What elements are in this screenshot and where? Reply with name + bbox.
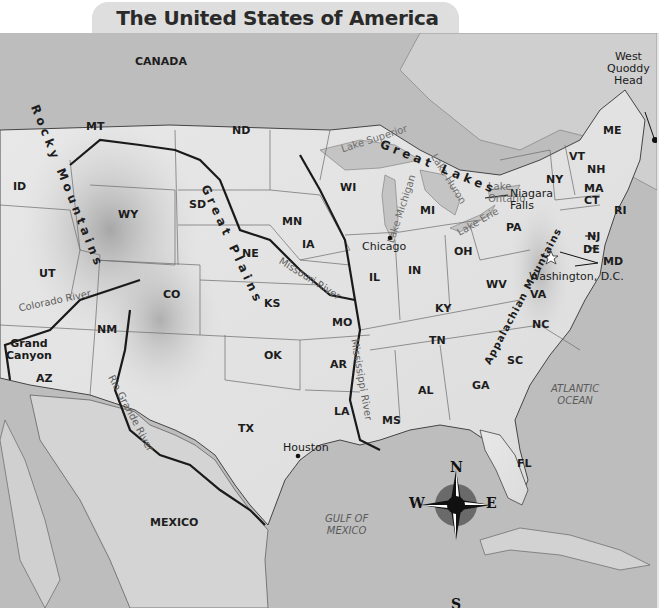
label-niagara-falls: Niagara Falls	[510, 188, 553, 212]
state-MS: MS	[382, 415, 401, 427]
label-atlantic-ocean: ATLANTIC OCEAN	[551, 383, 599, 407]
state-IA: IA	[302, 239, 315, 251]
state-NE: NE	[242, 248, 259, 260]
state-ND: ND	[232, 125, 250, 137]
state-MT: MT	[86, 121, 104, 133]
state-FL: FL	[517, 458, 532, 470]
state-MO: MO	[332, 317, 352, 329]
state-CT: CT	[584, 195, 600, 207]
state-GA: GA	[472, 380, 490, 392]
state-OH: OH	[454, 246, 473, 258]
label-gulf-of-mexico: GULF OF MEXICO	[325, 513, 368, 537]
houston-dot	[296, 454, 301, 459]
state-NY: NY	[546, 174, 563, 186]
us-map: CANADA MEXICO ATLANTIC OCEAN GULF OF MEX…	[0, 33, 659, 608]
state-NH: NH	[587, 164, 605, 176]
state-RI: RI	[614, 205, 627, 217]
compass-west: W	[409, 495, 425, 511]
state-UT: UT	[39, 268, 55, 280]
state-AZ: AZ	[36, 373, 53, 385]
state-VT: VT	[569, 151, 585, 163]
compass-rose	[421, 470, 491, 540]
state-WV: WV	[486, 279, 507, 291]
state-ID: ID	[13, 181, 26, 193]
state-MI: MI	[420, 205, 435, 217]
state-WY: WY	[118, 209, 138, 221]
label-washington-dc: Washington, D.C.	[529, 271, 624, 283]
state-IL: IL	[369, 272, 380, 284]
state-AL: AL	[418, 385, 434, 397]
compass-east: E	[486, 495, 497, 511]
state-MD: MD	[603, 256, 623, 268]
state-NC: NC	[532, 319, 549, 331]
state-NM: NM	[97, 324, 117, 336]
state-WI: WI	[340, 182, 356, 194]
state-SC: SC	[507, 355, 523, 367]
label-houston: Houston	[283, 442, 329, 454]
state-DE: DE	[583, 244, 600, 256]
map-title: The United States of America	[105, 6, 450, 30]
state-KY: KY	[435, 303, 452, 315]
compass-north: N	[450, 459, 463, 475]
state-MN: MN	[282, 216, 302, 228]
label-mexico: MEXICO	[150, 517, 198, 529]
state-CO: CO	[163, 289, 180, 301]
state-PA: PA	[506, 222, 522, 234]
state-TX: TX	[238, 423, 254, 435]
state-ME: ME	[603, 125, 621, 137]
label-grand-canyon: Grand Canyon	[6, 338, 52, 362]
state-TN: TN	[429, 335, 446, 347]
state-VA: VA	[530, 289, 546, 301]
label-canada: CANADA	[135, 56, 187, 68]
state-AR: AR	[330, 359, 347, 371]
state-IN: IN	[408, 265, 421, 277]
state-OK: OK	[264, 350, 282, 362]
state-LA: LA	[334, 406, 350, 418]
state-SD: SD	[189, 199, 206, 211]
state-NJ: NJ	[587, 231, 600, 243]
label-chicago: Chicago	[362, 241, 406, 253]
state-KS: KS	[264, 298, 280, 310]
compass-south: S	[451, 596, 461, 608]
label-west-quoddy-head: West Quoddy Head	[607, 51, 650, 87]
